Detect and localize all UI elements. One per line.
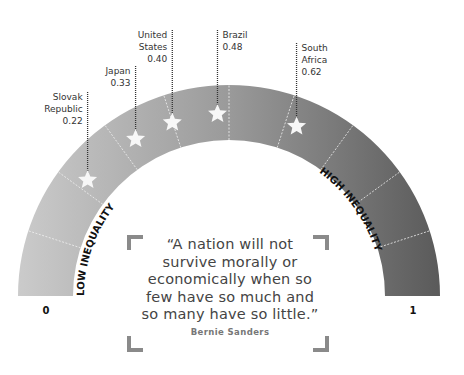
country-label: Japan (104, 66, 130, 76)
country-label: Brazil (222, 30, 247, 40)
country-label: 0.62 (302, 67, 322, 77)
country-label: 0.22 (63, 116, 83, 126)
quote-line: economically when so (135, 271, 325, 289)
quote-line: survive morally or (135, 254, 325, 272)
quote-text: “A nation will not survive morally or ec… (135, 236, 325, 324)
quote-line: “A nation will not (135, 236, 325, 254)
country-label: Africa (302, 55, 328, 65)
quote-author: Bernie Sanders (135, 327, 325, 337)
country-label: States (139, 42, 168, 52)
country-label: Slovak (53, 92, 84, 102)
country-label: 0.48 (222, 42, 242, 52)
scale-max-label: 1 (410, 305, 417, 316)
country-label: United (138, 30, 168, 40)
country-label: 0.33 (111, 78, 131, 88)
quote-line: few have so much and (135, 289, 325, 307)
country-label: 0.40 (147, 54, 167, 64)
country-label: Republic (44, 104, 83, 114)
country-label: South (302, 43, 328, 53)
quote-line: so many have so little.” (135, 306, 325, 324)
scale-min-label: 0 (43, 305, 50, 316)
